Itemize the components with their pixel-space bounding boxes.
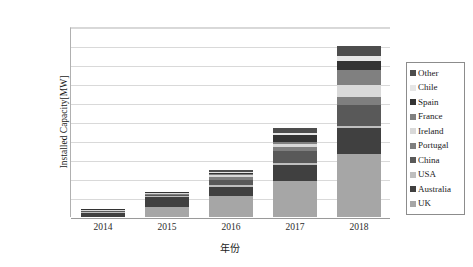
x-axis-tick-label: 2014 xyxy=(71,222,135,232)
bar-segment xyxy=(337,61,381,70)
legend-swatch-icon xyxy=(410,99,416,105)
x-axis-title: 年份 xyxy=(70,240,390,255)
legend-item[interactable]: China xyxy=(410,153,462,168)
bar-segment xyxy=(337,97,381,105)
bar-group xyxy=(71,28,135,217)
stacked-bar-chart: Installed Capacity[MW] 0.010.020.030.040… xyxy=(0,0,473,267)
legend-item-label: China xyxy=(418,156,440,165)
legend-swatch-icon xyxy=(410,114,416,120)
bar-group xyxy=(135,28,199,217)
bar-group xyxy=(263,28,327,217)
bar-segment xyxy=(337,128,381,155)
legend-item[interactable]: Chile xyxy=(410,81,462,96)
stacked-bar[interactable] xyxy=(209,170,253,217)
stacked-bar[interactable] xyxy=(145,192,189,217)
legend-item[interactable]: UK xyxy=(410,197,462,212)
bar-segment xyxy=(337,85,381,97)
bar-group xyxy=(327,28,391,217)
legend-item-label: Australia xyxy=(418,185,451,194)
legend-item-label: USA xyxy=(418,170,436,179)
bar-segment xyxy=(145,207,189,217)
legend-swatch-icon xyxy=(410,186,416,192)
plot-area: 0.010.020.030.040.050.060.070.080.090.01… xyxy=(70,27,390,217)
x-axis-tick-label: 2015 xyxy=(135,222,199,232)
bar-segment xyxy=(209,187,253,197)
legend-swatch-icon xyxy=(410,172,416,178)
legend-item-label: Other xyxy=(418,69,439,78)
legend-item-label: Ireland xyxy=(418,127,443,136)
legend-swatch-icon xyxy=(410,143,416,149)
stacked-bar[interactable] xyxy=(337,46,381,217)
legend-item[interactable]: Ireland xyxy=(410,124,462,139)
y-axis-title: Installed Capacity[MW] xyxy=(59,76,69,169)
legend-item[interactable]: Spain xyxy=(410,95,462,110)
legend-item[interactable]: Portugal xyxy=(410,139,462,154)
bar-segment xyxy=(337,70,381,85)
chart-legend: OtherChileSpainFranceIrelandPortugalChin… xyxy=(406,62,465,215)
bar-segment xyxy=(145,197,189,207)
stacked-bar[interactable] xyxy=(81,209,125,217)
legend-item-label: France xyxy=(418,112,443,121)
bar-segment xyxy=(337,105,381,126)
y-axis-title-wrap: Installed Capacity[MW] xyxy=(22,27,36,217)
legend-item-label: UK xyxy=(418,199,431,208)
legend-item-label: Chile xyxy=(418,83,438,92)
x-axis-tick-label: 2017 xyxy=(263,222,327,232)
legend-swatch-icon xyxy=(410,157,416,163)
legend-item[interactable]: USA xyxy=(410,168,462,183)
x-axis-tick-label: 2016 xyxy=(199,222,263,232)
gridline xyxy=(71,218,390,219)
bar-segment xyxy=(273,165,317,181)
stacked-bar[interactable] xyxy=(273,128,317,217)
legend-item[interactable]: Australia xyxy=(410,182,462,197)
legend-swatch-icon xyxy=(410,85,416,91)
legend-item[interactable]: France xyxy=(410,110,462,125)
bar-group xyxy=(199,28,263,217)
x-axis-tick-label: 2018 xyxy=(327,222,391,232)
legend-item-label: Spain xyxy=(418,98,439,107)
legend-item[interactable]: Other xyxy=(410,66,462,81)
legend-swatch-icon xyxy=(410,201,416,207)
bar-segment xyxy=(273,181,317,217)
bar-segment xyxy=(273,135,317,142)
legend-item-label: Portugal xyxy=(418,141,449,150)
legend-swatch-icon xyxy=(410,70,416,76)
bar-segment xyxy=(337,46,381,56)
bar-segment xyxy=(337,154,381,217)
bar-segment xyxy=(209,196,253,217)
bar-segment xyxy=(273,151,317,162)
bar-segment xyxy=(81,213,125,217)
legend-swatch-icon xyxy=(410,128,416,134)
